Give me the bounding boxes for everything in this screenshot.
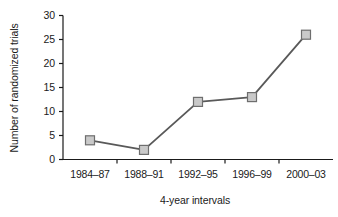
- y-tick-label: 15: [31, 82, 55, 93]
- y-tick-label: 25: [31, 34, 55, 45]
- y-tick-label: 30: [31, 10, 55, 21]
- y-tick-label: 10: [31, 106, 55, 117]
- chart-container: Number of randomized trials 4-year inter…: [0, 0, 338, 217]
- x-tick-label: 2000–03: [273, 169, 338, 180]
- data-point-marker: [302, 30, 311, 39]
- data-markers: [86, 30, 311, 154]
- y-tick-label: 20: [31, 58, 55, 69]
- data-point-marker: [248, 93, 257, 102]
- x-axis-ticks: [117, 160, 279, 164]
- y-tick-label: 0: [31, 154, 55, 165]
- data-series-line: [90, 35, 306, 150]
- data-point-marker: [194, 97, 203, 106]
- y-tick-label: 5: [31, 130, 55, 141]
- data-point-marker: [86, 136, 95, 145]
- data-point-marker: [140, 145, 149, 154]
